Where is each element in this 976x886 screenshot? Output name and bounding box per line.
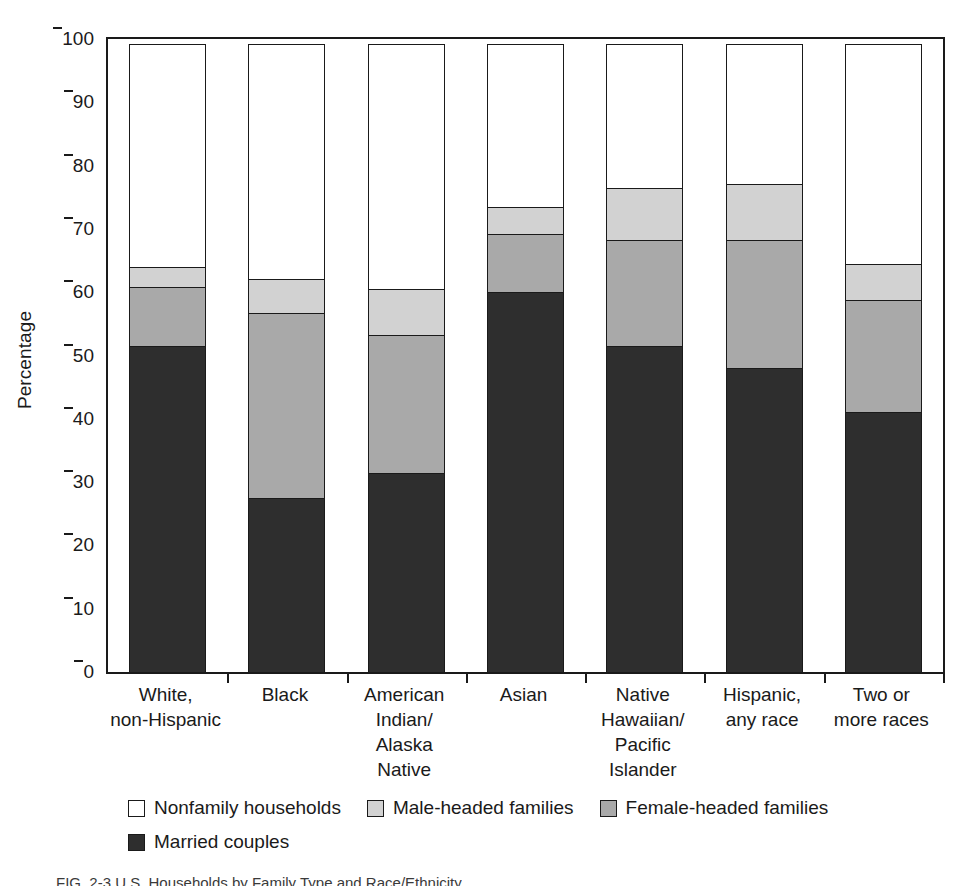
y-tick-mark <box>64 280 73 282</box>
bar-stack[interactable] <box>845 39 922 672</box>
bar-segment-married-couples[interactable] <box>845 412 922 672</box>
bar-segment-female-headed-families[interactable] <box>487 234 564 294</box>
y-tick-60: 60 <box>73 281 108 303</box>
bar-segment-female-headed-families[interactable] <box>606 240 683 348</box>
bar-segment-female-headed-families[interactable] <box>368 335 445 474</box>
y-tick-10: 10 <box>73 598 108 620</box>
bar-segment-married-couples[interactable] <box>129 346 206 672</box>
bar-segment-married-couples[interactable] <box>606 346 683 672</box>
bar-segment-male-headed-families[interactable] <box>248 279 325 314</box>
y-tick-mark <box>64 344 73 346</box>
y-tick-50: 50 <box>73 345 108 367</box>
bar-segment-female-headed-families[interactable] <box>129 287 206 347</box>
y-tick-70: 70 <box>73 218 108 240</box>
y-tick-mark <box>74 660 83 662</box>
bar-segment-nonfamily-households[interactable] <box>606 44 683 190</box>
bar-stack[interactable] <box>248 39 325 672</box>
legend-swatch-icon <box>367 800 384 817</box>
legend-item[interactable]: Female-headed families <box>600 797 829 819</box>
y-tick-0: 0 <box>83 661 108 683</box>
bar-segment-male-headed-families[interactable] <box>845 264 922 302</box>
bar-segment-female-headed-families[interactable] <box>726 240 803 370</box>
legend-label: Female-headed families <box>626 797 829 819</box>
bar-segment-married-couples[interactable] <box>726 368 803 672</box>
bar-segment-male-headed-families[interactable] <box>368 289 445 336</box>
bar-segment-male-headed-families[interactable] <box>487 207 564 235</box>
y-tick-mark <box>64 407 73 409</box>
bar-segment-nonfamily-households[interactable] <box>129 44 206 269</box>
bar-stack[interactable] <box>487 39 564 672</box>
y-tick-mark <box>64 597 73 599</box>
y-tick-mark <box>64 154 73 156</box>
chart-figure: Percentage 0102030405060708090100 White,… <box>0 0 976 886</box>
legend-row-primary: Nonfamily householdsMale-headed families… <box>128 791 958 825</box>
bar-segment-male-headed-families[interactable] <box>129 267 206 289</box>
legend-swatch-icon <box>600 800 617 817</box>
legend-row-secondary: Married couples <box>128 825 958 859</box>
bar-stack[interactable] <box>726 39 803 672</box>
y-axis-title: Percentage <box>14 290 36 430</box>
y-tick-30: 30 <box>73 471 108 493</box>
bar-segment-nonfamily-households[interactable] <box>726 44 803 186</box>
legend-swatch-icon <box>128 834 145 851</box>
bar-segment-nonfamily-households[interactable] <box>368 44 445 291</box>
bar-segment-nonfamily-households[interactable] <box>248 44 325 281</box>
legend-item[interactable]: Married couples <box>128 831 289 853</box>
legend-item[interactable]: Nonfamily households <box>128 797 341 819</box>
legend-label: Married couples <box>154 831 289 853</box>
legend-label: Nonfamily households <box>154 797 341 819</box>
bar-segment-male-headed-families[interactable] <box>726 184 803 241</box>
legend-item[interactable]: Male-headed families <box>367 797 574 819</box>
y-tick-40: 40 <box>73 408 108 430</box>
y-tick-100: 100 <box>62 28 108 50</box>
bar-segment-married-couples[interactable] <box>368 473 445 672</box>
y-tick-mark <box>64 90 73 92</box>
bar-segment-nonfamily-households[interactable] <box>845 44 922 266</box>
figure-caption: FIG. 2-3 U.S. Households by Family Type … <box>56 874 462 886</box>
bar-stack[interactable] <box>129 39 206 672</box>
chart-legend: Nonfamily householdsMale-headed families… <box>128 791 958 859</box>
bar-segment-married-couples[interactable] <box>248 498 325 672</box>
y-tick-mark <box>64 217 73 219</box>
y-tick-mark <box>53 27 62 29</box>
y-tick-20: 20 <box>73 534 108 556</box>
x-axis-label: Two or more races <box>796 682 966 732</box>
legend-label: Male-headed families <box>393 797 574 819</box>
bar-segment-male-headed-families[interactable] <box>606 188 683 242</box>
bar-segment-nonfamily-households[interactable] <box>487 44 564 209</box>
bar-segment-married-couples[interactable] <box>487 292 564 672</box>
bar-stack[interactable] <box>368 39 445 672</box>
y-tick-mark <box>64 533 73 535</box>
y-tick-80: 80 <box>73 155 108 177</box>
y-tick-mark <box>64 470 73 472</box>
y-tick-90: 90 <box>73 91 108 113</box>
plot-area: 0102030405060708090100 <box>106 37 945 674</box>
bar-stack[interactable] <box>606 39 683 672</box>
bar-segment-female-headed-families[interactable] <box>248 313 325 500</box>
legend-swatch-icon <box>128 800 145 817</box>
bar-segment-female-headed-families[interactable] <box>845 300 922 414</box>
